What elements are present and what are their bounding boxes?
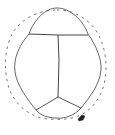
diagram-canvas bbox=[0, 0, 115, 135]
horizontal-division-line bbox=[29, 34, 88, 35]
vertical-division-line bbox=[58, 35, 59, 97]
lower-right-branch bbox=[58, 97, 81, 108]
solid-outline bbox=[15, 8, 101, 118]
diagram-figure bbox=[0, 0, 115, 135]
lower-left-branch bbox=[36, 97, 58, 110]
dashed-outer-outline bbox=[5, 10, 106, 119]
